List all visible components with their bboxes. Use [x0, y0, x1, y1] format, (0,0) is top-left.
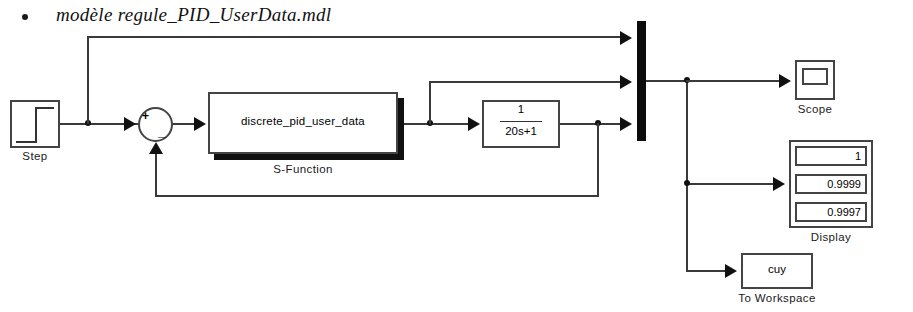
mux-block[interactable]	[637, 21, 646, 141]
display-label: Display	[789, 231, 873, 243]
display-value-1: 1	[795, 146, 867, 166]
transfer-function-denominator: 20s+1	[482, 125, 560, 137]
sum-minus-sign: _	[158, 124, 166, 138]
step-waveform-icon	[12, 102, 58, 146]
arrow-into-scope	[779, 74, 791, 88]
step-label: Step	[10, 150, 60, 162]
s-function-name: discrete_pid_user_data	[208, 115, 398, 127]
wire-feedback-left	[155, 195, 599, 197]
sum-plus-sign: +	[142, 110, 149, 122]
bullet-icon	[22, 14, 28, 20]
wire-tf-to-mux3	[560, 123, 624, 125]
s-function-label: S-Function	[208, 163, 398, 175]
scope-screen-icon	[802, 68, 828, 85]
display-value-2: 0.9999	[795, 174, 867, 194]
arrow-into-tf	[468, 117, 480, 131]
wire-to-display	[686, 183, 775, 185]
wire-to-workspace	[686, 270, 727, 272]
fraction-bar	[500, 121, 542, 122]
arrow-into-to-workspace	[725, 264, 737, 278]
arrow-into-mux-1	[620, 31, 632, 45]
scope-label: Scope	[785, 103, 845, 115]
arrow-into-sum	[124, 117, 136, 131]
wire-mux-bus-vertical	[686, 80, 688, 271]
arrow-into-display	[773, 177, 785, 191]
wire-sfunction-to-mux2	[429, 81, 624, 83]
display-value-3: 0.9997	[795, 202, 867, 222]
transfer-function-numerator: 1	[482, 103, 560, 115]
wire-feedback-down	[597, 123, 599, 196]
arrow-into-sum-feedback	[149, 142, 163, 154]
to-workspace-variable: cuy	[741, 263, 813, 275]
caption-text: modèle regule_PID_UserData.mdl	[56, 4, 331, 26]
wire-step-to-mux1	[87, 36, 624, 38]
wire-step-branch-up	[87, 36, 89, 124]
wire-to-scope	[686, 80, 781, 82]
figure-caption: modèle regule_PID_UserData.mdl	[22, 4, 542, 32]
arrow-into-mux-3	[620, 117, 632, 131]
to-workspace-label: To Workspace	[729, 292, 825, 304]
arrow-into-mux-2	[620, 75, 632, 89]
wire-sfunction-to-tf	[404, 123, 478, 125]
wire-feedback-up	[155, 148, 157, 196]
arrow-into-sfunction	[194, 117, 206, 131]
junction-mux-display	[684, 180, 690, 186]
wire-sfunction-branch-up	[429, 81, 431, 124]
step-block[interactable]	[10, 100, 60, 148]
wire-mux-output	[646, 80, 688, 82]
